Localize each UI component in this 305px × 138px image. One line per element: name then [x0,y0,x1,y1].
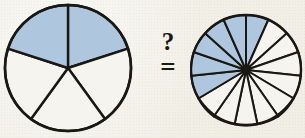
worksheet-figure: ? = [0,0,305,138]
right-pie-center-hub [243,67,249,73]
left-pie-svg [2,1,136,137]
question-mark-symbol: ? [146,32,190,52]
left-pie-diagram [2,1,136,138]
right-pie-svg [190,1,304,137]
equals-sign-symbol: = [146,56,190,78]
equals-relation-group: ? = [146,32,190,78]
right-pie-diagram [190,1,304,138]
